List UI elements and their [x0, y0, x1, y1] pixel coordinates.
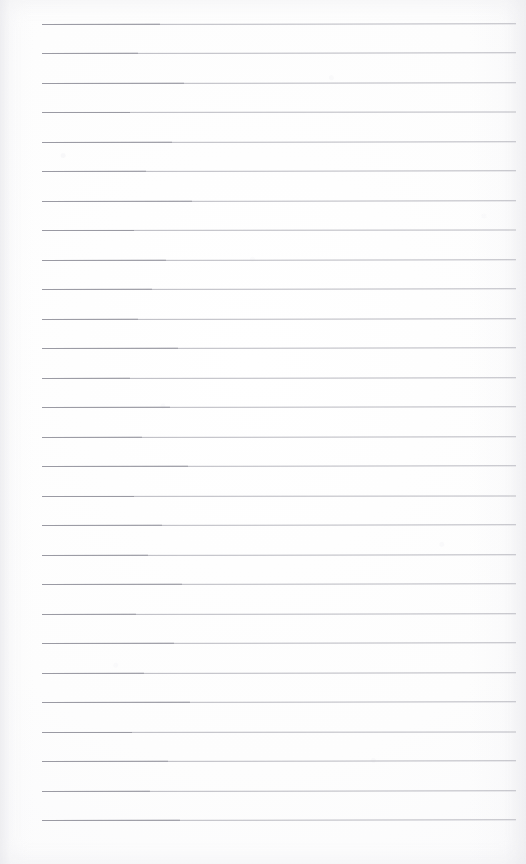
ruled-line-dark-segment — [42, 112, 130, 113]
ruled-line — [42, 790, 516, 792]
ruled-line — [42, 701, 516, 703]
ruled-line-dark-segment — [42, 230, 134, 231]
ruled-line-dark-segment — [42, 643, 174, 644]
ruled-line — [42, 200, 516, 202]
ruled-line — [42, 170, 516, 172]
ruled-line-dark-segment — [42, 201, 192, 202]
ruled-line — [42, 465, 516, 467]
ruled-line-dark-segment — [42, 702, 190, 703]
ruled-line-dark-segment — [42, 761, 168, 762]
ruled-line — [42, 141, 516, 143]
ruled-line — [42, 819, 516, 821]
ruled-line-dark-segment — [42, 407, 170, 408]
ruled-lines-group — [0, 0, 526, 864]
ruled-line — [42, 406, 516, 408]
ruled-line — [42, 347, 516, 349]
ruled-line — [42, 524, 516, 526]
ruled-line — [42, 377, 516, 379]
ruled-line-dark-segment — [42, 614, 136, 615]
ruled-line-dark-segment — [42, 24, 160, 25]
ruled-line — [42, 288, 516, 290]
ruled-line-dark-segment — [42, 584, 182, 585]
ruled-line-dark-segment — [42, 673, 144, 674]
ruled-line — [42, 111, 516, 113]
ruled-line-dark-segment — [42, 466, 188, 467]
ruled-line-dark-segment — [42, 820, 180, 821]
ruled-line — [42, 642, 516, 644]
ruled-line-dark-segment — [42, 348, 178, 349]
ruled-line — [42, 731, 516, 733]
ruled-line-dark-segment — [42, 83, 184, 84]
ruled-line — [42, 495, 516, 497]
ruled-line — [42, 436, 516, 438]
ruled-line — [42, 229, 516, 231]
ruled-line — [42, 52, 516, 54]
scanned-page — [0, 0, 526, 864]
ruled-line-dark-segment — [42, 791, 150, 792]
ruled-line-dark-segment — [42, 496, 134, 497]
ruled-line — [42, 82, 516, 84]
ruled-line — [42, 672, 516, 674]
ruled-line — [42, 613, 516, 615]
ruled-line-dark-segment — [42, 555, 148, 556]
ruled-line-dark-segment — [42, 289, 152, 290]
ruled-line — [42, 318, 516, 320]
ruled-line-dark-segment — [42, 437, 142, 438]
ruled-line-dark-segment — [42, 732, 132, 733]
ruled-line-dark-segment — [42, 171, 146, 172]
ruled-line — [42, 259, 516, 261]
ruled-line — [42, 23, 516, 25]
ruled-line — [42, 583, 516, 585]
ruled-line-dark-segment — [42, 142, 172, 143]
ruled-line-dark-segment — [42, 525, 162, 526]
ruled-line-dark-segment — [42, 319, 138, 320]
ruled-line — [42, 760, 516, 762]
ruled-line — [42, 554, 516, 556]
ruled-line-dark-segment — [42, 378, 130, 379]
ruled-line-dark-segment — [42, 53, 138, 54]
ruled-line-dark-segment — [42, 260, 166, 261]
